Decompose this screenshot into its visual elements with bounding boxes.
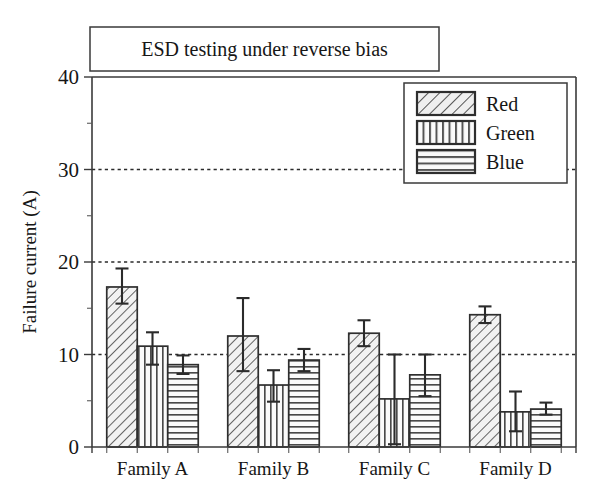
legend-swatch-blue	[417, 150, 475, 173]
x-axis-ticks: Family AFamily BFamily CFamily D	[92, 447, 576, 479]
legend: RedGreenBlue	[404, 83, 567, 183]
y-tick-label: 0	[69, 435, 80, 459]
bar-red-family-d	[470, 315, 501, 447]
x-tick-label-family-b: Family B	[238, 458, 309, 479]
bar-blue-family-a	[168, 365, 199, 447]
y-tick-label: 10	[58, 343, 79, 367]
legend-item[interactable]: Blue	[417, 150, 524, 173]
legend-item[interactable]: Red	[417, 92, 518, 115]
legend-label-green: Green	[486, 122, 535, 144]
bar-chart: 010203040 Family AFamily BFamily CFamily…	[0, 0, 602, 500]
y-tick-label: 20	[58, 250, 79, 274]
x-tick-label-family-a: Family A	[117, 458, 189, 479]
y-axis-label: Failure current (A)	[19, 190, 41, 334]
y-axis-ticks: 010203040	[58, 65, 92, 459]
legend-swatch-red	[417, 92, 475, 115]
y-tick-label: 30	[58, 158, 79, 182]
legend-swatch-green	[417, 121, 475, 144]
x-tick-label-family-c: Family C	[359, 458, 430, 479]
bar-red-family-c	[349, 333, 380, 447]
x-tick-label-family-d: Family D	[479, 458, 551, 479]
legend-label-blue: Blue	[486, 151, 524, 173]
bar-red-family-a	[107, 287, 138, 447]
bar-blue-family-b	[289, 360, 320, 447]
chart-figure: 010203040 Family AFamily BFamily CFamily…	[0, 0, 602, 500]
y-tick-label: 40	[58, 65, 79, 89]
legend-item[interactable]: Green	[417, 121, 535, 144]
chart-title-box: ESD testing under reverse bias	[90, 27, 439, 71]
chart-title: ESD testing under reverse bias	[141, 38, 388, 61]
legend-label-red: Red	[486, 93, 518, 115]
